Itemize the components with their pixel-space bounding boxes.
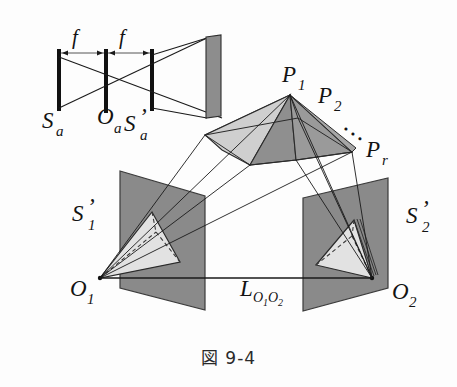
image-plane-s2	[303, 178, 388, 311]
label-o1-sub: 1	[87, 291, 95, 307]
label-s2-prime: S ’ 2	[406, 196, 430, 235]
label-p1-sub: 1	[298, 77, 306, 93]
label-baseline-sub-o1: O	[253, 290, 263, 305]
focal-label-2: f	[119, 25, 128, 49]
figure-caption: 図 9-4	[0, 344, 457, 369]
label-s1-prime-base: S	[72, 201, 84, 226]
label-s-a-base: S	[42, 108, 54, 133]
label-s2-prime-mark: ’	[421, 196, 429, 221]
label-s1-prime: S ’ 1	[72, 194, 96, 233]
label-s-a-prime-base: S	[124, 111, 136, 136]
label-p1: P 1	[281, 62, 306, 93]
label-pr-sub: r	[382, 152, 388, 168]
screen-rectangle	[206, 35, 221, 118]
label-p1-base: P	[281, 62, 296, 87]
label-p2-sub: 2	[334, 98, 342, 114]
label-s-a-prime-sub: a	[140, 127, 148, 143]
label-o2-base: O	[392, 279, 409, 304]
label-baseline: L O 1 O 2	[239, 276, 283, 308]
label-p2: P 2	[317, 83, 342, 114]
label-baseline-base: L	[239, 276, 253, 301]
label-o1-base: O	[70, 276, 87, 301]
label-pr: P r	[365, 137, 388, 168]
label-o2-sub: 2	[409, 294, 417, 310]
label-s-a-sub: a	[56, 123, 64, 139]
label-s1-prime-mark: ’	[87, 194, 95, 219]
label-o-a: O a	[97, 104, 122, 136]
image-plane-bar	[150, 49, 154, 111]
label-p2-base: P	[317, 83, 332, 108]
label-o-a-sub: a	[114, 120, 122, 136]
label-s-a-prime-mark: ’	[139, 104, 147, 129]
label-baseline-sub-o2: O	[268, 290, 278, 305]
figure-root: f f S a O a S ’ a P 1 P 2 ···	[0, 0, 457, 387]
label-s2-prime-base: S	[406, 203, 418, 228]
object-plane-bar	[57, 49, 61, 111]
label-s1-prime-sub: 1	[88, 217, 96, 233]
screen-rays	[152, 38, 207, 118]
label-s-a: S a	[42, 108, 64, 139]
label-o1: O 1	[70, 276, 95, 307]
focal-label-1: f	[72, 25, 81, 49]
label-s-a-prime: S ’ a	[124, 104, 148, 143]
label-s2-prime-sub: 2	[422, 219, 430, 235]
label-o-a-base: O	[97, 104, 114, 129]
figure-diagram: f f S a O a S ’ a P 1 P 2 ···	[0, 0, 457, 387]
label-o2: O 2	[392, 279, 417, 310]
label-pr-base: P	[365, 137, 380, 162]
label-baseline-sub-2: 2	[278, 297, 283, 308]
